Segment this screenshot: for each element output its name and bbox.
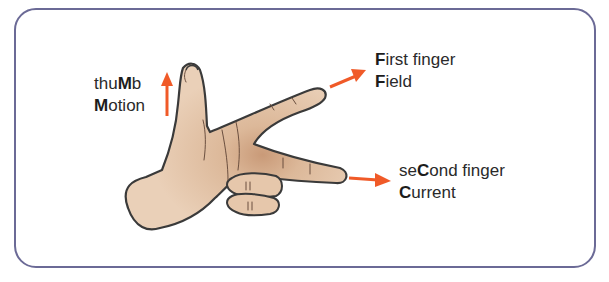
text-part-bold: F: [375, 72, 385, 91]
second-finger-current-label: seCond finger Current: [399, 160, 505, 204]
text-part-bold: C: [399, 183, 411, 202]
second-finger-current-arrow-icon: [349, 173, 391, 187]
text-part: otion: [108, 96, 145, 115]
second-finger-label-line1: seCond finger: [399, 160, 505, 182]
text-part: ond finger: [429, 161, 505, 180]
text-part-bold: F: [375, 50, 385, 69]
first-finger-field-arrow-icon: [330, 69, 366, 87]
text-part: b: [132, 74, 141, 93]
thumb-motion-label: thuMb Motion: [94, 73, 145, 117]
text-part: irst finger: [385, 50, 455, 69]
first-finger-label-line2: Field: [375, 71, 455, 93]
text-part: ield: [385, 72, 411, 91]
text-part-bold: C: [417, 161, 429, 180]
little-finger: [227, 194, 279, 215]
text-part: thu: [94, 74, 118, 93]
text-part: urrent: [411, 183, 455, 202]
thumb-label-line2: Motion: [94, 95, 145, 117]
text-part-bold: M: [94, 96, 108, 115]
text-part: se: [399, 161, 417, 180]
hand-icon: [126, 64, 347, 230]
first-finger-field-label: First finger Field: [375, 49, 455, 93]
first-finger-label-line1: First finger: [375, 49, 455, 71]
text-part-bold: M: [118, 74, 132, 93]
hand-illustration: [0, 0, 609, 282]
thumb-label-line1: thuMb: [94, 73, 145, 95]
second-finger-label-line2: Current: [399, 182, 505, 204]
thumb-motion-arrow-icon: [161, 72, 173, 116]
